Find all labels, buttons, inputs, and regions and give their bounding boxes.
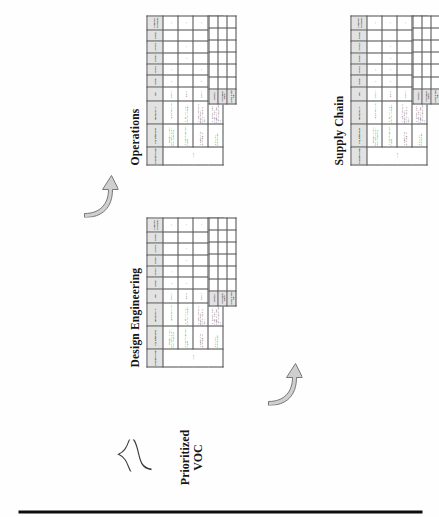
cell-s2-r1: 5 [163, 63, 178, 74]
footer-cell [227, 28, 236, 40]
footer-supply-chain: Target (s) Performance Gap (s) Actions t… [412, 15, 439, 104]
header-section-1: Section 1 [351, 75, 367, 86]
table-row: 1. Client 1.1. Site search for audio rec… [163, 16, 178, 165]
cell-sign-2: Distinct [178, 86, 193, 101]
footer-cell [413, 52, 422, 64]
cell-s4-r1 [367, 41, 382, 52]
footer-row-target: Target (s) [209, 218, 218, 306]
footer-cell [218, 16, 227, 28]
cell-sign-2: Distinct [178, 288, 193, 303]
table-row: 1.3. Data workflow handled capability 1.… [397, 16, 412, 165]
footer-cell [218, 52, 227, 64]
header-ctq-requirements: CTQ Requirements [351, 124, 367, 147]
footer-label-target: Target (s) [209, 88, 218, 103]
cell-stakeholder-group: 1. Client [163, 349, 223, 367]
cell-sign-1: Transform [367, 86, 382, 101]
footer-cell [422, 40, 431, 52]
cell-competitor-r2: 7 [178, 218, 193, 232]
cell-competitor-r3: 6 [193, 218, 208, 232]
cell-s5-r2 [178, 29, 193, 40]
cell-s5-r1 [367, 29, 382, 40]
cell-s2-r2: 10 [382, 63, 397, 74]
table-row: 1.2. Customer's assurance for access 1.2… [382, 16, 397, 165]
cell-competitor-r3: 6 [193, 16, 208, 30]
header-section-5: Section 5 [147, 29, 163, 40]
footer-cell [227, 254, 236, 266]
header-sign: Sign [351, 86, 367, 101]
cell-s2-r2 [178, 265, 193, 276]
footer-row-actions: Actions to Close Gap [431, 16, 439, 104]
cell-s3-r1 [163, 254, 178, 265]
footer-label-actions: Actions to Close Gap [227, 88, 236, 103]
header-section-5: Section 5 [351, 29, 367, 40]
header-section-5: Section 5 [147, 231, 163, 242]
cell-sign-1: Transform [163, 288, 178, 303]
footer-cell [209, 278, 218, 290]
cell-competitor-r1: 8 [163, 218, 178, 232]
footer-row-target: Target (s) [413, 16, 422, 104]
footer-cell [422, 28, 431, 40]
cell-s2-r2 [178, 63, 193, 74]
cell-s4-r3 [397, 41, 412, 52]
cell-competitor-r1: 8 [163, 16, 178, 30]
footer-cell [218, 266, 227, 278]
cell-s3-r2: 5 [178, 52, 193, 63]
footer-cell [209, 52, 218, 64]
cell-s4-r3 [193, 41, 208, 52]
header-ctq-requirements: CTQ Requirements [147, 124, 163, 147]
cell-s3-r1 [163, 52, 178, 63]
cell-spec-3: 1.3.1 Web content with all available vie… [193, 303, 208, 326]
cell-ctq-3: 1.3. Data workflow handled capability [397, 124, 412, 147]
cell-s4-r2: 10 [382, 41, 397, 52]
footer-cell [227, 266, 236, 278]
footer-row-actions: Actions to Close Gap [227, 218, 236, 306]
cell-competitor-r3: 6 [397, 16, 412, 30]
cell-ctq-3: 1.3. Data workflow handled capability [193, 326, 208, 349]
header-specification-y: Specification "Y" [147, 303, 163, 326]
footer-cell [218, 40, 227, 52]
header-competitor-performance: Competitor Performance [351, 16, 367, 30]
footer-cell [422, 16, 431, 28]
cell-s2-r3 [397, 63, 412, 74]
header-section-2: Section 2 [147, 265, 163, 276]
footer-cell [218, 230, 227, 242]
footer-cell [413, 76, 422, 88]
cell-s5-r1 [163, 231, 178, 242]
title-design-engineering: Design Engineering [128, 267, 140, 367]
header-section-1: Section 1 [147, 277, 163, 288]
table-row: 1.2. Customer's assurance for access 1.2… [178, 218, 193, 367]
footer-cell [431, 64, 439, 76]
footer-cell [413, 16, 422, 28]
cell-s4-r1 [163, 41, 178, 52]
rotated-sheet: Prioritized VOC Design Engineering [0, 0, 439, 517]
footer-label-performance-gap: Performance Gap (s) [422, 88, 431, 103]
footer-cell [413, 40, 422, 52]
cell-spec-1: 1.1.1 Cause effect 3 clicks [163, 101, 178, 124]
cell-s1-r1: 5 [163, 277, 178, 288]
cell-s4-r1 [163, 243, 178, 254]
footer-cell [218, 64, 227, 76]
header-section-3: Section 3 [147, 254, 163, 265]
footer-label-performance-gap: Performance Gap (s) [218, 88, 227, 103]
footer-row-performance-gap: Performance Gap (s) [218, 218, 227, 306]
cell-s4-r2: 10 [178, 41, 193, 52]
footer-cell [218, 242, 227, 254]
cell-competitor-r2: 7 [382, 16, 397, 30]
header-specification-y: Specification "Y" [351, 101, 367, 124]
cell-s4-r3 [193, 243, 208, 254]
footer-cell [218, 28, 227, 40]
footer-row-performance-gap: Performance Gap (s) [218, 16, 227, 104]
cell-sign-1: Transform [163, 86, 178, 101]
cell-spec-3: 1.3.1 Web content with all available vie… [193, 101, 208, 124]
footer-cell [413, 28, 422, 40]
cell-ctq-4: 1.4. Should be referenced/shared [208, 124, 223, 147]
footer-cell [431, 16, 439, 28]
cell-s5-r3 [397, 29, 412, 40]
cell-s1-r3: 8 [193, 75, 208, 86]
header-section-4: Section 4 [147, 243, 163, 254]
header-section-4: Section 4 [147, 41, 163, 52]
page-edge-bar [18, 510, 422, 513]
footer-cell [227, 242, 236, 254]
footer-cell [413, 64, 422, 76]
footer-cell [209, 76, 218, 88]
